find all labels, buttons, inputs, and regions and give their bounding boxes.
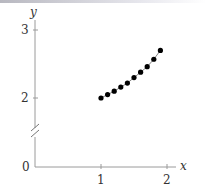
y-axis-label: y xyxy=(29,5,37,19)
data-point xyxy=(112,89,117,94)
axis-break-mark xyxy=(31,130,39,137)
x-tick-label-2: 2 xyxy=(163,173,171,187)
data-point xyxy=(151,57,156,62)
y-tick-label-3: 3 xyxy=(21,23,29,37)
data-point xyxy=(105,92,110,97)
origin-label: 0 xyxy=(22,160,30,174)
data-point xyxy=(98,95,103,100)
data-point xyxy=(145,64,150,69)
chart: y 3 2 0 1 2 x xyxy=(0,0,206,195)
data-point xyxy=(158,48,163,53)
data-point xyxy=(131,75,136,80)
x-axis-label: x xyxy=(180,159,187,173)
x-tick-label-1: 1 xyxy=(97,173,105,187)
data-series xyxy=(98,48,163,101)
data-point xyxy=(138,70,143,75)
y-tick-label-2: 2 xyxy=(21,91,29,105)
data-point xyxy=(125,80,130,85)
data-point xyxy=(118,85,123,90)
series-line xyxy=(101,50,160,98)
